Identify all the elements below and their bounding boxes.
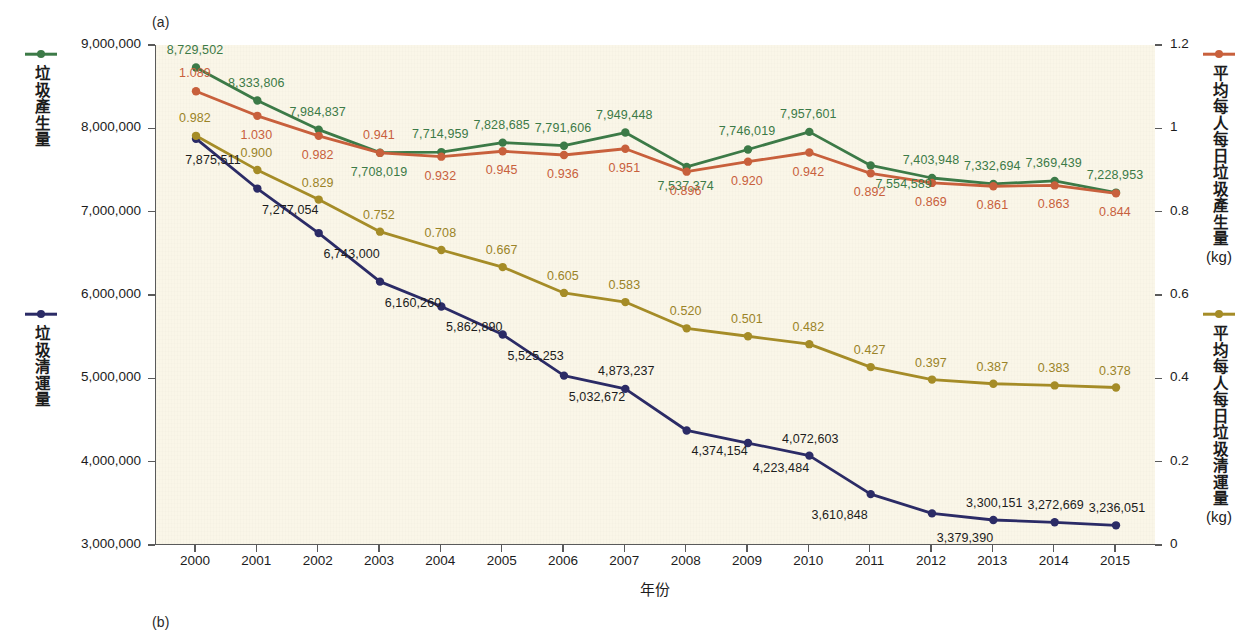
data-point: [621, 128, 629, 136]
y-right-tick-label: 1: [1170, 119, 1178, 134]
y-right-tick-label: 1.2: [1170, 36, 1189, 51]
data-point: [376, 227, 384, 235]
y-right-tick-label: 0: [1170, 536, 1178, 551]
data-point: [253, 96, 261, 104]
data-point: [744, 439, 752, 447]
legend-swatch-green: [25, 48, 57, 60]
legend-per-capita-collected: 平均每人每日垃圾清運量 (kg): [1202, 308, 1236, 525]
series-line-0: [196, 68, 1116, 193]
y-right-tick-mark: [1155, 128, 1162, 130]
legend-label-olive: 平均每人每日垃圾清運量: [1211, 325, 1227, 507]
x-tick-mark: [1053, 545, 1055, 552]
data-point: [376, 277, 384, 285]
legend-label-green: 垃圾產生量: [33, 65, 49, 148]
series-line-2: [196, 91, 1116, 193]
data-point: [560, 371, 568, 379]
x-tick-mark: [869, 545, 871, 552]
data-point: [560, 151, 568, 159]
legend-label-orange: 平均每人每日垃圾產生量: [1211, 65, 1227, 247]
y-right-tick-mark: [1155, 461, 1162, 463]
data-point: [253, 166, 261, 174]
series-line-3: [196, 136, 1116, 388]
x-tick-mark: [746, 545, 748, 552]
data-point: [866, 169, 874, 177]
y-right-tick-label: 0.6: [1170, 286, 1189, 301]
data-point: [437, 246, 445, 254]
x-tick-label: 2011: [855, 553, 884, 568]
y-right-tick-mark: [1155, 44, 1162, 46]
y-right-tick-label: 0.8: [1170, 203, 1189, 218]
y-left-tick-label: 7,000,000: [81, 203, 141, 218]
data-point: [1112, 383, 1120, 391]
data-point: [989, 380, 997, 388]
data-point: [560, 289, 568, 297]
x-tick-label: 2002: [303, 553, 333, 568]
x-tick-mark: [501, 545, 503, 552]
data-point: [498, 330, 506, 338]
y-left-tick-mark: [148, 378, 155, 380]
legend-swatch-olive: [1203, 308, 1235, 320]
data-point: [1050, 181, 1058, 189]
x-tick-mark: [378, 545, 380, 552]
x-tick-mark: [256, 545, 258, 552]
data-point: [744, 145, 752, 153]
y-left-tick-mark: [148, 544, 155, 546]
x-tick-label: 2003: [364, 553, 394, 568]
data-point: [928, 509, 936, 517]
data-point: [314, 195, 322, 203]
x-tick-mark: [685, 545, 687, 552]
data-point: [314, 132, 322, 140]
x-tick-label: 2005: [487, 553, 517, 568]
data-point: [560, 142, 568, 150]
x-axis-title: 年份: [640, 578, 670, 599]
y-right-tick-mark: [1155, 294, 1162, 296]
x-tick-label: 2004: [425, 553, 455, 568]
x-tick-mark: [930, 545, 932, 552]
data-point: [682, 167, 690, 175]
data-point: [376, 149, 384, 157]
y-left-tick-label: 8,000,000: [81, 119, 141, 134]
y-left-tick-mark: [148, 461, 155, 463]
y-left-tick-mark: [148, 128, 155, 130]
y-right-tick-mark: [1155, 378, 1162, 380]
y-left-tick-mark: [148, 44, 155, 46]
data-point: [805, 148, 813, 156]
data-point: [192, 63, 200, 71]
data-point: [253, 112, 261, 120]
data-point: [498, 263, 506, 271]
x-tick-mark: [992, 545, 994, 552]
panel-label-b: (b): [152, 614, 170, 630]
y-left-tick-label: 5,000,000: [81, 369, 141, 384]
x-tick-label: 2014: [1039, 553, 1069, 568]
x-tick-mark: [317, 545, 319, 552]
x-tick-label: 2013: [977, 553, 1007, 568]
data-point: [314, 229, 322, 237]
legend-swatch-navy: [25, 308, 57, 320]
legend-label-navy: 垃圾清運量: [33, 325, 49, 408]
data-point: [437, 302, 445, 310]
series-line-1: [196, 139, 1116, 526]
data-point: [682, 426, 690, 434]
data-point: [866, 363, 874, 371]
x-tick-mark: [808, 545, 810, 552]
x-tick-label: 2008: [671, 553, 701, 568]
data-point: [866, 490, 874, 498]
data-point: [928, 179, 936, 187]
x-tick-label: 2001: [241, 553, 271, 568]
x-tick-mark: [1114, 545, 1116, 552]
legend-unit-orange: (kg): [1206, 248, 1232, 265]
data-point: [621, 298, 629, 306]
y-right-tick-mark: [1155, 211, 1162, 213]
x-tick-label: 2000: [180, 553, 210, 568]
data-point: [1112, 521, 1120, 529]
legend-per-capita-generated: 平均每人每日垃圾產生量 (kg): [1202, 48, 1236, 265]
y-right-tick-label: 0.4: [1170, 369, 1189, 384]
y-right-tick-label: 0.2: [1170, 453, 1189, 468]
x-tick-mark: [440, 545, 442, 552]
data-point: [192, 87, 200, 95]
legend-waste-collected: 垃圾清運量: [24, 308, 58, 408]
x-tick-label: 2010: [793, 553, 823, 568]
x-tick-mark: [624, 545, 626, 552]
y-left-tick-label: 9,000,000: [81, 36, 141, 51]
x-tick-label: 2007: [609, 553, 639, 568]
